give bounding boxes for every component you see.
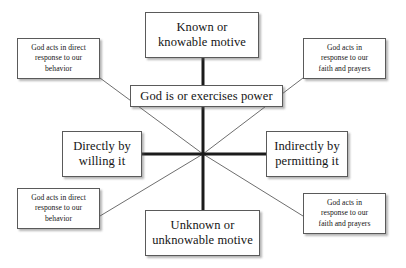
node-annotation-top-right-label: God acts in response to our faith and pr…: [304, 43, 385, 73]
node-indirectly-permitting-label: Indirectly by permitting it: [267, 139, 347, 169]
node-annotation-bottom-right-label: God acts in response to our faith and pr…: [304, 198, 385, 228]
node-known-motive[interactable]: Known or knowable motive: [145, 12, 259, 58]
node-directly-willing-label: Directly by willing it: [63, 139, 141, 169]
node-annotation-bottom-right[interactable]: God acts in response to our faith and pr…: [303, 193, 386, 234]
node-unknown-motive-label: Unknown or unknowable motive: [146, 218, 259, 248]
node-annotation-top-right[interactable]: God acts in response to our faith and pr…: [303, 38, 386, 79]
node-god-power-label: God is or exercises power: [131, 89, 282, 104]
concept-diagram: Known or knowable motive God is or exerc…: [0, 0, 406, 268]
node-god-power[interactable]: God is or exercises power: [130, 85, 283, 107]
node-directly-willing[interactable]: Directly by willing it: [62, 131, 142, 177]
node-annotation-top-left-label: God acts in direct response to our behav…: [18, 43, 99, 73]
node-annotation-top-left[interactable]: God acts in direct response to our behav…: [17, 38, 100, 79]
node-annotation-bottom-left[interactable]: God acts in direct response to our behav…: [17, 188, 100, 229]
node-annotation-bottom-left-label: God acts in direct response to our behav…: [18, 193, 99, 223]
node-indirectly-permitting[interactable]: Indirectly by permitting it: [266, 131, 348, 177]
node-unknown-motive[interactable]: Unknown or unknowable motive: [145, 210, 260, 256]
node-known-motive-label: Known or knowable motive: [146, 20, 258, 50]
